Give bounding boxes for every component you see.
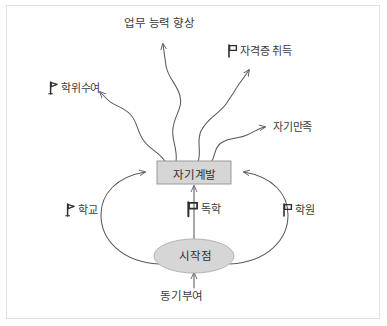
edge-to-certificate (198, 70, 249, 162)
flag-icon (65, 203, 76, 217)
flag-icon (227, 44, 238, 58)
edge-school-arc (101, 172, 159, 264)
flag-icon (186, 201, 199, 217)
method-self-study: 독학 (186, 201, 221, 217)
node-self-development-label: 자기계발 (173, 166, 216, 182)
edge-to-self-satisfaction (211, 127, 265, 163)
node-starting-point-label: 시작점 (179, 247, 211, 263)
edge-to-degree (100, 92, 166, 163)
flag-icon (48, 81, 59, 95)
method-school-label: 학교 (78, 205, 98, 216)
outcome-self-satisfaction: 자기만족 (273, 122, 312, 133)
outcome-degree-label: 학위수여 (61, 83, 100, 94)
diagram-canvas: 자기계발 시작점 업무 능력 향상 자격증 취득 학위수여 자기만족 (0, 0, 387, 326)
outcome-self-satisfaction-label: 자기만족 (273, 121, 312, 133)
diagram-graphics (0, 0, 387, 326)
method-academy: 학원 (282, 203, 315, 217)
edge-academy-arc (230, 172, 288, 264)
outcome-degree: 학위수여 (48, 81, 100, 95)
input-motivation-label: 동기부여 (160, 290, 203, 302)
method-self-study-label: 독학 (201, 204, 221, 215)
input-motivation: 동기부여 (160, 291, 203, 303)
edge-to-work-ability (163, 44, 181, 162)
outcome-work-ability-label: 업무 능력 향상 (124, 17, 195, 29)
outcome-certificate-label: 자격증 취득 (240, 46, 292, 57)
flag-icon (282, 203, 293, 217)
method-academy-label: 학원 (295, 205, 315, 216)
method-school: 학교 (65, 203, 98, 217)
outcome-certificate: 자격증 취득 (227, 44, 292, 58)
outcome-work-ability: 업무 능력 향상 (124, 18, 195, 30)
